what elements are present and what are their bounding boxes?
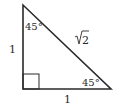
right-angle-marker xyxy=(23,74,39,89)
hypotenuse-radicand: 2 xyxy=(82,34,89,47)
bottom-side-label: 1 xyxy=(64,93,71,106)
left-side-label: 1 xyxy=(9,43,16,56)
top-angle-label: 45° xyxy=(25,21,43,32)
triangle-diagram: 45° 45° 1 1 2 xyxy=(0,0,114,107)
hypotenuse-label: 2 xyxy=(75,31,89,47)
bottom-right-angle-label: 45° xyxy=(82,77,100,88)
